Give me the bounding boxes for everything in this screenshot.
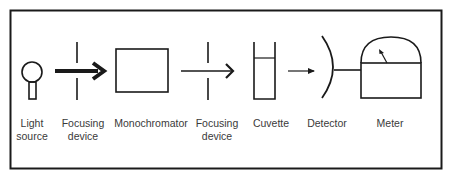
meter-icon [361,37,421,98]
label-light-source-1: Light [21,117,44,129]
label-focusing-device-2-line2: device [202,130,233,142]
monochromator-icon [116,49,168,92]
meter-needle-icon [381,52,387,63]
label-focusing-device-2-line1: Focusing [196,117,239,129]
light-source-icon [22,62,42,99]
thick-arrow-icon [55,63,104,79]
label-detector: Detector [307,117,347,129]
spectrophotometer-diagram: Light source Focusing device Monochromat… [0,0,451,179]
thin-arrow-icon [181,64,233,78]
label-meter: Meter [377,117,404,129]
small-arrow-icon [288,68,315,74]
diagram-frame [11,11,442,169]
label-light-source-2: source [16,130,48,142]
label-focusing-device-1-line1: Focusing [62,117,105,129]
cuvette-icon [254,42,275,99]
label-monochromator: Monochromator [114,117,188,129]
label-focusing-device-1-line2: device [68,130,99,142]
label-cuvette: Cuvette [253,117,289,129]
detector-icon [322,36,333,98]
